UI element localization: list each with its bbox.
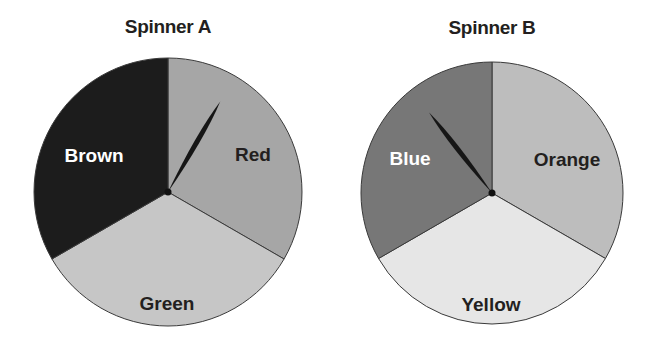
sector-label-orange: Orange bbox=[534, 149, 601, 170]
spinner-a: RedGreenBrown bbox=[34, 58, 302, 326]
spinner-hub-icon bbox=[165, 189, 172, 196]
sector-label-green: Green bbox=[140, 293, 195, 314]
sector-label-brown: Brown bbox=[64, 145, 123, 166]
sector-label-blue: Blue bbox=[389, 148, 430, 169]
spinner-hub-icon bbox=[489, 190, 496, 197]
spinners-diagram: RedGreenBrownOrangeYellowBlue bbox=[0, 0, 651, 341]
sector-label-yellow: Yellow bbox=[461, 294, 520, 315]
spinner-b: OrangeYellowBlue bbox=[361, 62, 623, 324]
sector-label-red: Red bbox=[235, 144, 271, 165]
